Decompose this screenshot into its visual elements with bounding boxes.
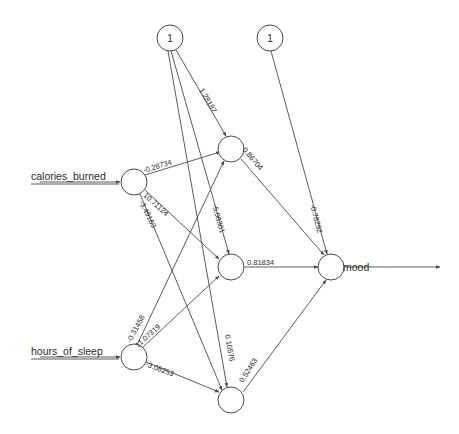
edge-hours_of_sleep-h1: [137, 161, 224, 345]
edge-hours_of_sleep-h2: [142, 276, 219, 348]
input-label-hours_of_sleep: hours_of_sleep: [31, 345, 103, 357]
node-bias_output-label: 1: [267, 33, 273, 44]
weight-label-h3-mood: 0.52463: [237, 356, 259, 384]
node-h2[interactable]: [218, 254, 244, 280]
weight-label-h2-mood: 0.81834: [247, 258, 274, 267]
weight-label-bias_hidden-h2: -5.08301: [210, 203, 227, 234]
diagram-canvas: 1 1 calories_burned hours_of_sleep mood …: [0, 0, 459, 434]
node-hours_of_sleep[interactable]: [121, 344, 147, 370]
weight-label-layer: 1.28187 -5.08301 0.10576 -0.78292 -0.287…: [125, 87, 325, 385]
edge-h3-mood: [243, 280, 326, 392]
weight-label-bias_hidden-h1: 1.28187: [197, 87, 218, 115]
weight-label-bias_hidden-h3: 0.10576: [223, 334, 237, 362]
weight-label-hours_of_sleep-h3: -3.08253: [144, 359, 175, 378]
node-mood[interactable]: [318, 254, 344, 280]
node-h1[interactable]: [218, 136, 244, 162]
input-label-calories_burned: calories_burned: [31, 170, 106, 182]
weight-label-bias_output-mood: -0.78292: [308, 203, 324, 234]
output-label-mood: mood: [343, 261, 369, 273]
weight-label-calories_burned-h1: -0.28734: [142, 158, 173, 175]
weight-label-h1-mood: 0.86704: [240, 146, 264, 173]
node-h3[interactable]: [218, 387, 244, 413]
node-bias_hidden-label: 1: [167, 33, 173, 44]
